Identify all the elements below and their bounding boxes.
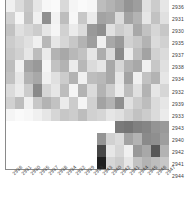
heatmap-cell[interactable] bbox=[87, 84, 96, 96]
heatmap-cell[interactable] bbox=[42, 84, 51, 96]
heatmap-cell[interactable] bbox=[69, 0, 78, 12]
heatmap-cell[interactable] bbox=[78, 84, 87, 96]
heatmap-cell[interactable] bbox=[24, 24, 33, 36]
heatmap-cell[interactable] bbox=[51, 72, 60, 84]
heatmap-cell[interactable] bbox=[87, 97, 96, 109]
heatmap-cell[interactable] bbox=[87, 36, 96, 48]
heatmap-cell[interactable] bbox=[133, 24, 142, 36]
heatmap-cell[interactable] bbox=[6, 97, 15, 109]
heatmap-cell[interactable] bbox=[69, 12, 78, 24]
heatmap-cell[interactable] bbox=[42, 60, 51, 72]
heatmap-cell[interactable] bbox=[87, 60, 96, 72]
heatmap-cell[interactable] bbox=[78, 0, 87, 12]
heatmap-cell[interactable] bbox=[60, 72, 69, 84]
heatmap-cell[interactable] bbox=[78, 109, 87, 121]
heatmap-cell[interactable] bbox=[51, 97, 60, 109]
heatmap-cell[interactable] bbox=[78, 145, 87, 157]
heatmap-cell[interactable] bbox=[106, 36, 115, 48]
heatmap-cell[interactable] bbox=[42, 121, 51, 133]
heatmap-cell[interactable] bbox=[115, 121, 124, 133]
heatmap-cell[interactable] bbox=[42, 24, 51, 36]
heatmap-cell[interactable] bbox=[78, 133, 87, 145]
heatmap-cell[interactable] bbox=[33, 48, 42, 60]
heatmap-cell[interactable] bbox=[69, 84, 78, 96]
heatmap-cell[interactable] bbox=[33, 145, 42, 157]
heatmap-cell[interactable] bbox=[160, 121, 169, 133]
heatmap-cell[interactable] bbox=[160, 48, 169, 60]
heatmap-cell[interactable] bbox=[115, 24, 124, 36]
heatmap-cell[interactable] bbox=[133, 0, 142, 12]
heatmap-cell[interactable] bbox=[42, 145, 51, 157]
heatmap-cell[interactable] bbox=[151, 97, 160, 109]
heatmap-cell[interactable] bbox=[69, 24, 78, 36]
heatmap-cell[interactable] bbox=[160, 24, 169, 36]
heatmap-cell[interactable] bbox=[24, 145, 33, 157]
heatmap-cell[interactable] bbox=[42, 72, 51, 84]
heatmap-cell[interactable] bbox=[133, 145, 142, 157]
heatmap-cell[interactable] bbox=[106, 145, 115, 157]
heatmap-cell[interactable] bbox=[124, 48, 133, 60]
heatmap-cell[interactable] bbox=[151, 72, 160, 84]
heatmap-cell[interactable] bbox=[115, 36, 124, 48]
heatmap-cell[interactable] bbox=[115, 60, 124, 72]
heatmap-cell[interactable] bbox=[142, 84, 151, 96]
heatmap-cell[interactable] bbox=[78, 97, 87, 109]
heatmap-cell[interactable] bbox=[33, 24, 42, 36]
heatmap-cell[interactable] bbox=[51, 12, 60, 24]
heatmap-cell[interactable] bbox=[33, 133, 42, 145]
heatmap-cell[interactable] bbox=[24, 109, 33, 121]
heatmap-cell[interactable] bbox=[160, 60, 169, 72]
heatmap-cell[interactable] bbox=[151, 48, 160, 60]
heatmap-cell[interactable] bbox=[15, 84, 24, 96]
heatmap-cell[interactable] bbox=[6, 121, 15, 133]
heatmap-cell[interactable] bbox=[124, 84, 133, 96]
heatmap-cell[interactable] bbox=[97, 12, 106, 24]
heatmap-cell[interactable] bbox=[60, 0, 69, 12]
heatmap-cell[interactable] bbox=[97, 36, 106, 48]
heatmap-cell[interactable] bbox=[51, 121, 60, 133]
heatmap-cell[interactable] bbox=[15, 133, 24, 145]
heatmap-cell[interactable] bbox=[115, 48, 124, 60]
heatmap-cell[interactable] bbox=[60, 24, 69, 36]
heatmap-cell[interactable] bbox=[69, 145, 78, 157]
heatmap-cell[interactable] bbox=[133, 133, 142, 145]
heatmap-cell[interactable] bbox=[42, 133, 51, 145]
heatmap-cell[interactable] bbox=[6, 60, 15, 72]
heatmap-cell[interactable] bbox=[42, 0, 51, 12]
heatmap-cell[interactable] bbox=[69, 48, 78, 60]
heatmap-cell[interactable] bbox=[78, 121, 87, 133]
heatmap-cell[interactable] bbox=[24, 60, 33, 72]
heatmap-cell[interactable] bbox=[33, 12, 42, 24]
heatmap-cell[interactable] bbox=[78, 60, 87, 72]
heatmap-cell[interactable] bbox=[97, 109, 106, 121]
heatmap-cell[interactable] bbox=[6, 133, 15, 145]
heatmap-cell[interactable] bbox=[87, 48, 96, 60]
heatmap-cell[interactable] bbox=[124, 109, 133, 121]
heatmap-cell[interactable] bbox=[87, 72, 96, 84]
heatmap-cell[interactable] bbox=[106, 84, 115, 96]
heatmap-cell[interactable] bbox=[106, 133, 115, 145]
heatmap-cell[interactable] bbox=[106, 60, 115, 72]
heatmap-cell[interactable] bbox=[151, 36, 160, 48]
heatmap-cell[interactable] bbox=[106, 12, 115, 24]
heatmap-cell[interactable] bbox=[151, 109, 160, 121]
heatmap-cell[interactable] bbox=[51, 145, 60, 157]
heatmap-cell[interactable] bbox=[24, 97, 33, 109]
heatmap-cell[interactable] bbox=[106, 0, 115, 12]
heatmap-cell[interactable] bbox=[6, 109, 15, 121]
heatmap-cell[interactable] bbox=[15, 121, 24, 133]
heatmap-cell[interactable] bbox=[6, 84, 15, 96]
heatmap-cell[interactable] bbox=[60, 60, 69, 72]
heatmap-cell[interactable] bbox=[142, 133, 151, 145]
heatmap-cell[interactable] bbox=[133, 109, 142, 121]
heatmap-cell[interactable] bbox=[6, 0, 15, 12]
heatmap-cell[interactable] bbox=[51, 36, 60, 48]
heatmap-cell[interactable] bbox=[151, 145, 160, 157]
heatmap-cell[interactable] bbox=[60, 12, 69, 24]
heatmap-cell[interactable] bbox=[51, 84, 60, 96]
heatmap-cell[interactable] bbox=[133, 97, 142, 109]
heatmap-cell[interactable] bbox=[160, 72, 169, 84]
heatmap-cell[interactable] bbox=[160, 84, 169, 96]
heatmap-cell[interactable] bbox=[60, 145, 69, 157]
heatmap-cell[interactable] bbox=[151, 12, 160, 24]
